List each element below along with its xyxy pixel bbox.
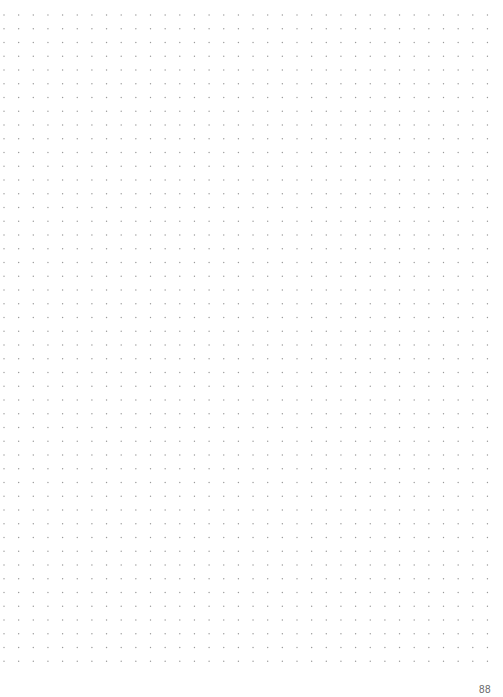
page-number: 88 [479,684,491,695]
dot-grid [0,0,503,697]
